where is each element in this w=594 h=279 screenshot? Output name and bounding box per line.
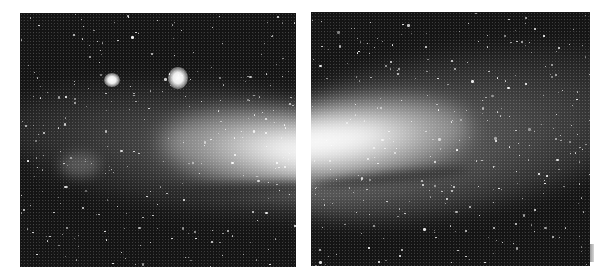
star xyxy=(85,190,88,193)
star xyxy=(42,169,44,171)
star xyxy=(551,64,553,66)
star xyxy=(138,153,140,155)
star xyxy=(556,51,558,53)
star xyxy=(35,140,37,142)
star xyxy=(85,161,87,163)
star xyxy=(585,56,587,58)
star xyxy=(274,122,275,123)
star xyxy=(30,205,31,206)
star xyxy=(562,90,564,92)
star xyxy=(543,35,545,37)
star xyxy=(577,91,579,93)
star xyxy=(478,186,480,188)
star xyxy=(105,93,107,95)
star xyxy=(525,23,526,24)
star xyxy=(182,227,185,230)
star xyxy=(407,24,410,27)
star xyxy=(441,191,443,193)
star xyxy=(523,214,526,217)
star xyxy=(83,26,84,27)
star xyxy=(569,44,571,46)
star xyxy=(253,95,255,97)
star xyxy=(135,264,136,265)
star xyxy=(127,166,128,167)
star xyxy=(385,260,386,261)
star xyxy=(197,71,199,73)
star xyxy=(382,41,383,42)
star xyxy=(366,189,368,191)
star xyxy=(508,19,510,21)
star xyxy=(63,163,65,165)
star xyxy=(74,84,75,85)
star xyxy=(356,212,357,213)
star xyxy=(586,264,587,265)
star xyxy=(368,247,370,249)
star xyxy=(487,35,488,36)
star xyxy=(288,159,289,160)
star xyxy=(367,158,369,160)
star xyxy=(138,227,141,230)
star xyxy=(555,74,557,76)
star xyxy=(465,256,467,258)
star xyxy=(157,228,158,229)
star xyxy=(369,179,371,181)
star xyxy=(358,51,359,52)
star xyxy=(377,38,378,39)
star xyxy=(81,19,82,20)
star xyxy=(534,131,535,132)
star xyxy=(329,160,331,162)
star xyxy=(336,254,337,255)
star xyxy=(269,264,271,266)
star xyxy=(361,177,364,180)
star xyxy=(182,183,183,184)
star xyxy=(107,146,109,148)
star xyxy=(163,161,164,162)
star xyxy=(455,231,456,232)
star xyxy=(256,176,258,178)
star xyxy=(454,111,455,112)
star xyxy=(370,22,371,23)
star xyxy=(581,246,583,248)
star xyxy=(65,256,66,257)
star xyxy=(551,76,553,78)
star xyxy=(101,54,102,55)
star xyxy=(125,258,126,259)
star xyxy=(27,160,28,161)
star xyxy=(534,28,536,30)
star xyxy=(106,239,107,240)
star xyxy=(367,43,368,44)
star xyxy=(102,42,103,43)
star xyxy=(312,106,313,107)
star xyxy=(78,246,80,248)
star xyxy=(270,85,271,86)
star xyxy=(279,190,281,192)
star xyxy=(62,234,63,235)
star xyxy=(190,79,191,80)
star xyxy=(91,163,93,165)
star xyxy=(565,227,567,229)
star xyxy=(451,185,452,186)
star xyxy=(521,41,523,43)
star xyxy=(505,80,507,82)
star xyxy=(219,242,221,244)
star xyxy=(534,209,536,211)
star xyxy=(144,119,145,120)
star xyxy=(560,140,562,142)
star xyxy=(124,228,125,229)
star xyxy=(401,34,403,36)
star xyxy=(445,203,446,204)
star xyxy=(234,137,236,139)
star xyxy=(481,160,483,162)
star xyxy=(337,31,340,34)
star xyxy=(515,75,516,76)
star xyxy=(193,52,195,54)
star xyxy=(34,176,35,177)
star xyxy=(27,228,29,230)
star xyxy=(315,188,316,189)
star xyxy=(276,162,278,164)
star xyxy=(58,127,60,129)
star xyxy=(23,209,25,211)
star xyxy=(86,106,87,107)
star xyxy=(388,131,390,133)
star xyxy=(315,265,316,266)
